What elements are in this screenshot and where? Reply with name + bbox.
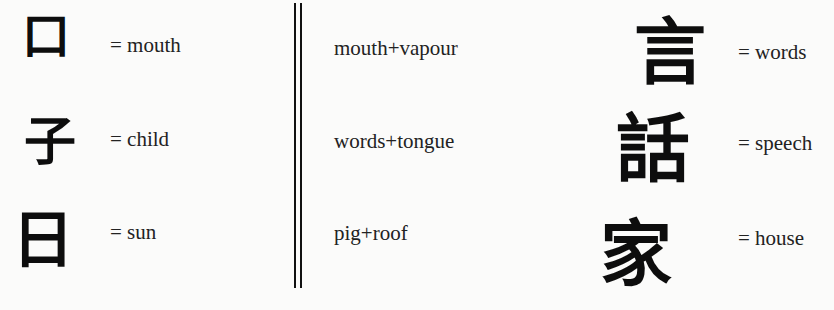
composition-speech: words+tongue: [334, 129, 454, 154]
divider-line-right: [300, 3, 302, 288]
meaning-mouth: = mouth: [110, 33, 181, 58]
composition-house: pig+roof: [334, 221, 408, 246]
chinese-character-house: 家: [600, 218, 672, 290]
chinese-character-sun: 日: [12, 210, 74, 272]
chinese-character-words: 言: [634, 16, 706, 88]
meaning-speech: = speech: [738, 131, 812, 156]
chinese-character-mouth: 口: [22, 12, 70, 60]
meaning-house: = house: [738, 226, 804, 251]
chinese-character-child: 子: [24, 116, 76, 168]
composition-words: mouth+vapour: [334, 36, 458, 61]
meaning-sun: = sun: [110, 220, 156, 245]
meaning-words: = words: [738, 40, 806, 65]
meaning-child: = child: [110, 127, 169, 152]
chinese-character-speech: 話: [616, 112, 690, 186]
divider-line-left: [294, 3, 296, 288]
